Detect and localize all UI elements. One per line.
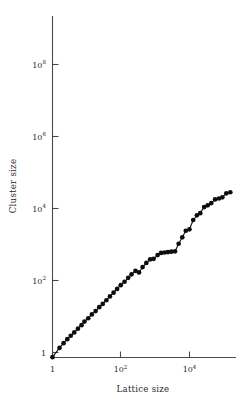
data-point [129, 272, 134, 277]
data-point [90, 312, 95, 317]
x-axis-tick-labels: 1 102 104 [50, 364, 197, 374]
y-tick-label-5: 108 [32, 59, 46, 69]
data-point [111, 290, 116, 295]
data-point [173, 249, 178, 254]
data-point [140, 265, 145, 270]
data-point [68, 333, 73, 338]
figure-container: 1 102 104 106 108 1 102 104 Lattice size… [0, 0, 249, 420]
y-tick-label-1: 1 [41, 349, 46, 358]
data-point [97, 305, 102, 310]
data-point [50, 355, 55, 360]
data-point [93, 309, 98, 314]
log-log-scatter-chart: 1 102 104 106 108 1 102 104 Lattice size… [0, 0, 249, 420]
data-point [72, 330, 77, 335]
x-axis-ticks [53, 352, 190, 358]
data-point [57, 346, 62, 351]
data-point [118, 283, 123, 288]
data-point [76, 326, 81, 331]
data-point [122, 279, 127, 284]
data-point [144, 261, 149, 266]
data-point [108, 294, 113, 299]
x-tick-label-1: 1 [50, 365, 55, 374]
data-point [151, 256, 156, 261]
x-tick-label-2: 102 [114, 364, 128, 374]
data-series-line [53, 192, 231, 357]
data-point [180, 235, 185, 240]
data-point [228, 190, 233, 195]
data-point [176, 241, 181, 246]
data-point [104, 298, 109, 303]
y-axis-title: Cluster size [8, 159, 18, 213]
y-axis-ticks [53, 65, 59, 353]
data-point [115, 287, 120, 292]
data-point [209, 201, 214, 206]
data-series-points [50, 190, 233, 360]
data-point [100, 302, 105, 307]
y-tick-label-4: 106 [32, 131, 46, 141]
data-point [198, 211, 203, 216]
y-tick-label-2: 102 [32, 275, 46, 285]
y-tick-label-3: 104 [32, 203, 46, 213]
data-point [61, 341, 66, 346]
x-tick-label-3: 104 [183, 364, 197, 374]
x-axis-title: Lattice size [117, 384, 170, 394]
data-point [86, 316, 91, 321]
data-point [224, 191, 229, 196]
data-point [187, 227, 192, 232]
data-point [191, 218, 196, 223]
data-point [82, 319, 87, 324]
data-point [220, 195, 225, 200]
y-axis-tick-labels: 1 102 104 106 108 [32, 59, 46, 357]
data-point [65, 337, 70, 342]
data-point [126, 276, 131, 281]
data-point [137, 270, 142, 275]
